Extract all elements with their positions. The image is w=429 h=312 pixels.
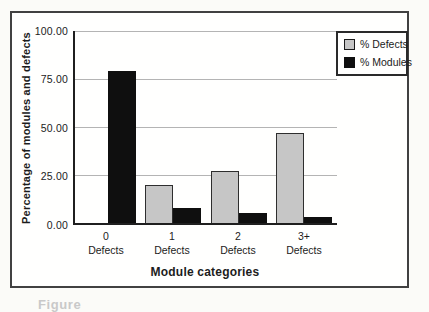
x-label-line2: Defects [73,243,139,257]
x-label-line2: Defects [139,243,205,257]
x-label-line1: 1 [139,229,205,243]
x-label-line2: Defects [205,243,271,257]
bar-Modules-0 [108,71,136,223]
defects-swatch-icon [344,39,355,50]
figure-caption-fragment: Figure [38,297,81,312]
bar-Defects-1 [145,185,173,223]
x-label-line2: Defects [271,243,337,257]
bar-group-0 [75,31,141,223]
x-label-3+: 3+Defects [271,229,337,257]
bar-Modules-1 [173,208,201,223]
modules-swatch-icon [344,57,355,68]
bar-group-1 [141,31,207,223]
x-axis-labels: 0Defects1Defects2Defects3+Defects [73,229,337,257]
y-tick-label-100: 100.00 [20,25,68,38]
x-label-line1: 2 [205,229,271,243]
x-label-0: 0Defects [73,229,139,257]
y-tick-label-25: 25.00 [20,170,68,183]
y-tick-label-75: 75.00 [20,73,68,86]
legend-row-modules: % Modules [344,56,401,68]
x-label-2: 2Defects [205,229,271,257]
legend-label-defects: % Defects [360,38,408,50]
bar-Modules-2 [239,213,267,223]
bar-Defects-3+ [276,133,304,223]
y-tick-label-0: 0.00 [20,219,68,232]
bar-group-3+ [272,31,338,223]
legend-row-defects: % Defects [344,38,401,50]
bar-group-2 [206,31,272,223]
legend: % Defects % Modules [336,31,408,76]
x-label-line1: 0 [73,229,139,243]
y-tick-label-50: 50.00 [20,122,68,135]
bar-Modules-3+ [304,217,332,223]
x-axis-title: Module categories [73,265,337,279]
figure-box: Percentage of modules and defects 0.0025… [10,11,409,288]
legend-label-modules: % Modules [360,56,412,68]
bar-Defects-2 [211,171,239,223]
plot-area [73,31,337,225]
x-label-line1: 3+ [271,229,337,243]
bar-groups [75,31,337,223]
x-label-1: 1Defects [139,229,205,257]
